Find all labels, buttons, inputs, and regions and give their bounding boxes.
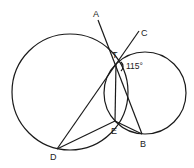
angle-label: 115° (126, 61, 143, 71)
segment-D-E (57, 121, 115, 149)
label-T: T (112, 50, 118, 60)
label-C: C (141, 28, 148, 38)
line-C-D (57, 31, 139, 149)
label-E: E (111, 126, 117, 136)
chord-T-E (115, 64, 116, 121)
geometry-diagram: A C T 115° E B D (0, 0, 194, 168)
label-B: B (140, 139, 146, 149)
label-D: D (50, 152, 57, 162)
label-A: A (93, 9, 99, 19)
